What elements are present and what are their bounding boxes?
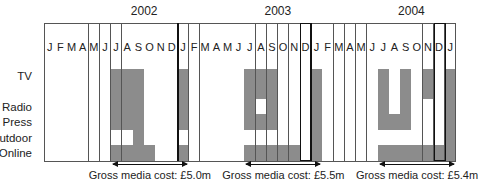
schedule-cell-active [445, 114, 457, 131]
schedule-cell-active [144, 145, 156, 162]
row-label-outdoor: Outdoor [0, 132, 32, 144]
schedule-cell-active [122, 69, 134, 100]
schedule-cell [345, 114, 357, 131]
schedule-cell [55, 99, 67, 115]
schedule-cell [367, 99, 379, 115]
schedule-cell-active [244, 145, 256, 162]
schedule-cell-active [400, 145, 412, 162]
schedule-cell [44, 69, 56, 100]
schedule-cell-active [378, 145, 390, 162]
schedule-cell [378, 130, 390, 146]
month-header-cell: O [144, 23, 156, 70]
schedule-cell [334, 114, 346, 131]
schedule-cell [144, 130, 156, 146]
schedule-cell-active [256, 114, 268, 131]
schedule-cell [233, 145, 245, 162]
schedule-cell-active [278, 145, 290, 162]
schedule-cell [411, 99, 423, 115]
schedule-cell [44, 114, 56, 131]
schedule-cell-active [244, 114, 256, 131]
month-header-cell: J [178, 23, 190, 70]
schedule-cell-active [311, 145, 323, 162]
year-label: 2002 [131, 4, 158, 18]
month-header-cell: A [211, 23, 223, 70]
schedule-cell [189, 130, 201, 146]
schedule-cell [322, 69, 334, 100]
schedule-cell [411, 130, 423, 146]
schedule-cell-active [256, 145, 268, 162]
schedule-cell [155, 114, 167, 131]
schedule-cell [356, 145, 368, 162]
schedule-cell [44, 99, 56, 115]
schedule-cell [345, 99, 357, 115]
month-header-cell: J [367, 23, 379, 70]
schedule-cell [222, 145, 234, 162]
schedule-cell [189, 114, 201, 131]
schedule-cell [423, 130, 435, 146]
highlighted-month-box [434, 23, 446, 161]
schedule-cell [267, 130, 279, 146]
schedule-cell [345, 145, 357, 162]
month-header-cell: N [423, 23, 435, 70]
schedule-cell [66, 69, 78, 100]
schedule-cell-active [423, 69, 435, 100]
month-header-cell: A [345, 23, 357, 70]
month-header-cell: O [278, 23, 290, 70]
schedule-cell [278, 130, 290, 146]
schedule-cell-active [111, 114, 123, 131]
schedule-cell [256, 130, 268, 146]
schedule-cell [100, 114, 112, 131]
schedule-cell [89, 145, 101, 162]
schedule-cell-active [267, 99, 279, 115]
schedule-cell-active [311, 69, 323, 100]
schedule-cell [100, 130, 112, 146]
schedule-cell [66, 114, 78, 131]
highlighted-month-box [300, 23, 312, 161]
month-header-cell: S [267, 23, 279, 70]
schedule-cell [345, 130, 357, 146]
schedule-cell [278, 99, 290, 115]
schedule-cell-active [133, 145, 145, 162]
schedule-cell [100, 69, 112, 100]
schedule-cell [89, 130, 101, 146]
schedule-cell-active [445, 69, 457, 100]
schedule-cell-active [400, 114, 412, 131]
month-header-cell: J [311, 23, 323, 70]
schedule-cell-active [423, 145, 435, 162]
schedule-cell-active [311, 114, 323, 131]
schedule-cell-active [178, 99, 190, 115]
schedule-cell-active [133, 99, 145, 115]
schedule-cell [233, 69, 245, 100]
month-header-cell: M [66, 23, 78, 70]
schedule-cell [211, 130, 223, 146]
schedule-cell [189, 69, 201, 100]
schedule-cell-active [133, 69, 145, 100]
schedule-cell [322, 145, 334, 162]
schedule-cell-active [400, 99, 412, 115]
schedule-cell-active [122, 99, 134, 115]
schedule-cell [222, 130, 234, 146]
schedule-cell-active [445, 99, 457, 115]
month-header-cell: A [77, 23, 89, 70]
month-header-cell: J [100, 23, 112, 70]
schedule-cell [356, 69, 368, 100]
schedule-cell [289, 69, 301, 100]
schedule-cell [289, 130, 301, 146]
month-header-cell: M [89, 23, 101, 70]
schedule-cell-active [267, 145, 279, 162]
schedule-cell [55, 114, 67, 131]
schedule-cell [122, 130, 134, 146]
month-header-cell: S [133, 23, 145, 70]
row-label-tv: TV [17, 70, 32, 82]
schedule-cell-active [111, 145, 123, 162]
schedule-cell [411, 69, 423, 100]
schedule-cell [44, 130, 56, 146]
schedule-cell [111, 130, 123, 146]
schedule-cell [322, 114, 334, 131]
campaign-span-arrow [380, 164, 454, 165]
schedule-cell [222, 114, 234, 131]
schedule-cell-active [378, 99, 390, 115]
schedule-cell [44, 145, 56, 162]
schedule-cell [66, 99, 78, 115]
schedule-cell-active [389, 145, 401, 162]
